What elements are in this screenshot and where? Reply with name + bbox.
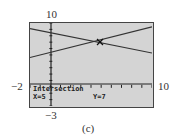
rising-line xyxy=(30,27,152,58)
xmax-label: 10 xyxy=(158,81,169,92)
ymin-label: −3 xyxy=(45,110,57,121)
y-readout: Y=7 xyxy=(93,94,106,101)
mode-text: Intersection xyxy=(33,86,84,93)
graph-plot xyxy=(30,23,152,106)
figure-caption: (c) xyxy=(82,123,94,134)
ymax-label: 10 xyxy=(46,9,57,20)
x-readout: X=5 xyxy=(33,94,46,101)
falling-line xyxy=(30,29,152,53)
calculator-screen: Intersection X=5 Y=7 xyxy=(29,22,154,108)
axis-ticks xyxy=(30,23,152,106)
xmin-label: −2 xyxy=(11,81,23,92)
